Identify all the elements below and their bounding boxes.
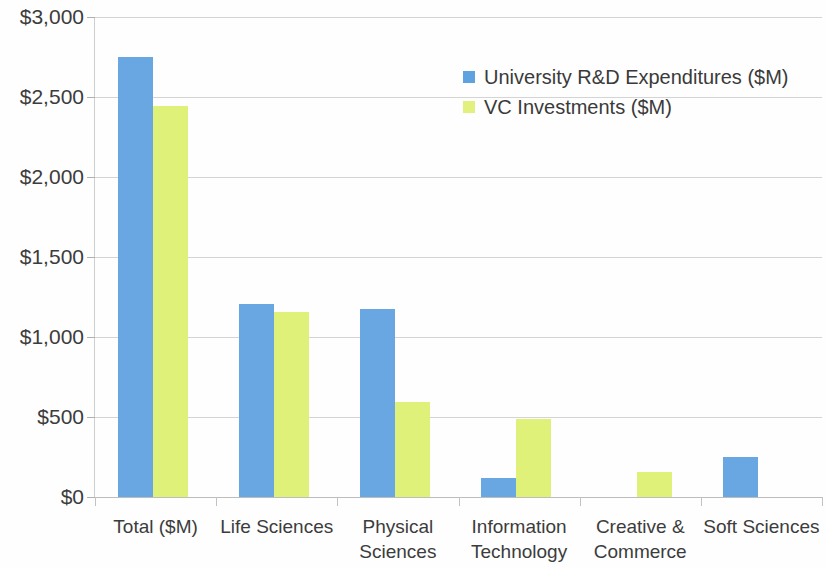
bar (274, 312, 309, 497)
gridline (95, 177, 822, 178)
x-axis-tick (580, 497, 581, 506)
y-axis-labels: $3,000$2,500$2,000$1,500$1,000$500$0 (0, 0, 84, 567)
y-axis-tick (87, 177, 95, 178)
x-axis-tick (822, 497, 823, 506)
bar-chart: $3,000$2,500$2,000$1,500$1,000$500$0 Tot… (0, 0, 826, 567)
y-axis-tick-label: $0 (2, 486, 84, 507)
legend-item: VC Investments ($M) (463, 92, 823, 122)
bar (395, 402, 430, 497)
gridline (95, 257, 822, 258)
x-axis-category-label: Information Technology (459, 514, 580, 564)
x-axis-category-label: Total ($M) (95, 514, 216, 539)
x-axis-category-label: Life Sciences (216, 514, 337, 539)
y-axis-tick-label: $2,000 (2, 166, 84, 187)
y-axis-tick-label: $500 (2, 406, 84, 427)
bar (516, 419, 551, 497)
y-axis-tick (87, 257, 95, 258)
bar (239, 304, 274, 497)
gridline (95, 17, 822, 18)
bar (637, 472, 672, 497)
x-axis-tick (216, 497, 217, 506)
chart-legend: University R&D Expenditures ($M)VC Inves… (463, 62, 823, 122)
x-axis-category-label: Physical Sciences (337, 514, 458, 564)
legend-label: University R&D Expenditures ($M) (484, 66, 789, 88)
bar (118, 57, 153, 497)
x-axis-category-label: Soft Sciences (701, 514, 822, 539)
legend-swatch-icon (463, 101, 475, 113)
x-axis-tick (459, 497, 460, 506)
y-axis-tick-label: $1,500 (2, 246, 84, 267)
bar (360, 309, 395, 497)
bar (153, 106, 188, 497)
y-axis-tick-label: $2,500 (2, 86, 84, 107)
gridline (95, 417, 822, 418)
y-axis-tick-label: $3,000 (2, 6, 84, 27)
gridline (95, 337, 822, 338)
x-axis-tick (701, 497, 702, 506)
legend-item: University R&D Expenditures ($M) (463, 62, 823, 92)
x-axis-tick (337, 497, 338, 506)
x-axis-tick (95, 497, 96, 506)
y-axis-tick (87, 17, 95, 18)
y-axis-tick-label: $1,000 (2, 326, 84, 347)
x-axis-labels: Total ($M)Life SciencesPhysical Sciences… (95, 506, 822, 566)
legend-label: VC Investments ($M) (484, 96, 672, 118)
legend-swatch-icon (463, 71, 475, 83)
y-axis-tick (87, 417, 95, 418)
y-axis-tick (87, 497, 95, 498)
x-axis-category-label: Creative & Commerce (580, 514, 701, 564)
y-axis-tick (87, 337, 95, 338)
y-axis-tick (87, 97, 95, 98)
bar (481, 478, 516, 497)
bar (723, 457, 758, 497)
